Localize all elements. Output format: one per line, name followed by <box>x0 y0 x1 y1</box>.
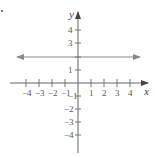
x-tick-label: 1 <box>89 88 94 98</box>
x-tick-label: −3 <box>35 88 45 98</box>
y-tick-label: −3 <box>64 117 74 127</box>
y-tick-label: 3 <box>68 38 73 48</box>
x-tick-label: 3 <box>115 88 120 98</box>
y-tick-label: 4 <box>68 25 73 35</box>
x-tick-label: −2 <box>48 88 58 98</box>
y-tick-label: −4 <box>64 130 74 140</box>
y-axis-label: y <box>68 8 74 20</box>
x-tick-label: 4 <box>128 88 133 98</box>
bullet-dot <box>1 10 3 12</box>
y-tick-label: −2 <box>64 104 74 114</box>
x-tick-label: −4 <box>22 88 32 98</box>
x-axis-label: x <box>143 85 149 97</box>
coordinate-plane: y x −4 −3 −2 −1 1 2 3 4 4 3 1 −1 −2 −3 −… <box>0 0 155 157</box>
x-tick-label: 2 <box>102 88 107 98</box>
y-tick-label: −1 <box>68 91 78 101</box>
y-tick-label: 1 <box>68 65 73 75</box>
